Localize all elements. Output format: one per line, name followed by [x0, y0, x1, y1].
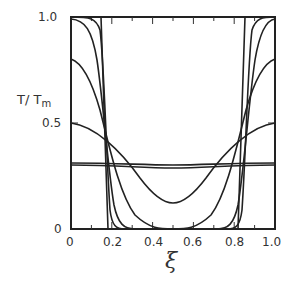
x-tick-06: 0.6 — [183, 235, 202, 249]
y-tick-05: 0.5 — [42, 116, 61, 130]
chart: 1.0 0.5 0 T/ Tm 0 0.2 0.4 0.6 0.8 1.0 ξ — [0, 0, 296, 281]
y-tick-1: 1.0 — [38, 10, 57, 24]
y-axis-label-sub: m — [41, 98, 51, 109]
x-tick-1: 1.0 — [262, 235, 281, 249]
x-tick-04: 0.4 — [144, 235, 163, 249]
curves — [71, 17, 275, 229]
x-tick-08: 0.8 — [225, 235, 244, 249]
x-axis-label: ξ — [165, 248, 179, 273]
y-tick-0: 0 — [54, 222, 62, 236]
x-tick-0: 0 — [66, 235, 74, 249]
y-axis-label-main: T/ T — [16, 92, 41, 107]
y-axis-label: T/ Tm — [16, 92, 51, 109]
x-tick-02: 0.2 — [103, 235, 122, 249]
